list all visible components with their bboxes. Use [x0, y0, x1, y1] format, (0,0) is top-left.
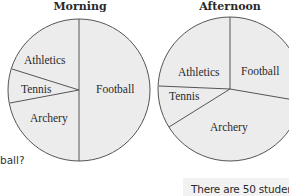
pie-charts: Athletics Tennis Archery Football Athlet… [0, 0, 289, 196]
note-box: There are 50 students. [183, 178, 289, 196]
afternoon-pie: Athletics Football Tennis Archery [158, 17, 289, 161]
morning-label-archery: Archery [30, 112, 68, 125]
morning-pie: Athletics Tennis Archery Football [8, 19, 150, 161]
question-text-fragment: ball? [0, 154, 25, 166]
afternoon-label-archery: Archery [210, 121, 248, 134]
morning-label-athletics: Athletics [24, 54, 66, 66]
afternoon-label-football: Football [241, 65, 279, 77]
afternoon-label-tennis: Tennis [169, 90, 200, 102]
note-text: There are 50 students. [191, 183, 289, 195]
afternoon-label-athletics: Athletics [178, 66, 220, 78]
morning-label-tennis: Tennis [21, 83, 52, 95]
morning-label-football: Football [96, 83, 134, 95]
